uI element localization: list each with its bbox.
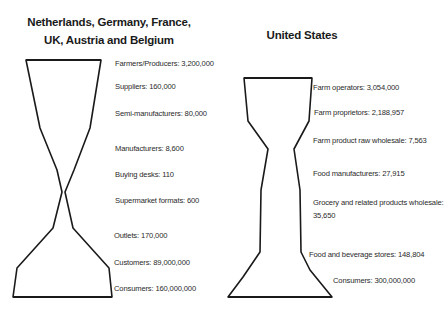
europe-hourglass-shape bbox=[13, 60, 112, 297]
europe-stage-manufacturers: Manufacturers: 8,600 bbox=[115, 143, 184, 154]
europe-stage-suppliers: Suppliers: 160,000 bbox=[115, 81, 176, 92]
europe-stage-customers: Customers: 89,000,000 bbox=[114, 257, 190, 268]
europe-stage-buying-desks: Buying desks: 110 bbox=[115, 169, 174, 180]
us-title: United States bbox=[252, 26, 352, 44]
europe-stage-semi-manufacturers: Semi-manufacturers: 80,000 bbox=[115, 108, 207, 119]
us-stage-consumers: Consumers: 300,000,000 bbox=[333, 275, 415, 286]
europe-stage-outlets: Outlets: 170,000 bbox=[114, 230, 167, 241]
europe-stage-supermarket-formats: Supermarket formats: 600 bbox=[115, 195, 199, 206]
us-stage-food-manufacturers: Food manufacturers: 27,915 bbox=[313, 168, 405, 179]
us-stage-food-beverage-stores: Food and beverage stores: 148,804 bbox=[309, 249, 424, 260]
us-stage-grocery-wholesale: Grocery and related products wholesale: … bbox=[313, 197, 444, 221]
us-stage-grocery-wholesale-line1: Grocery and related products wholesale: bbox=[313, 197, 444, 208]
us-stage-farm-product-raw-wholesale: Farm product raw wholesale: 7,563 bbox=[313, 135, 427, 146]
us-stage-farm-proprietors: Farm proprietors: 2,188,957 bbox=[314, 107, 404, 118]
europe-title-line2: UK, Austria and Belgium bbox=[14, 31, 204, 49]
us-stage-farm-operators: Farm operators: 3,054,000 bbox=[313, 82, 399, 93]
europe-title: Netherlands, Germany, France, UK, Austri… bbox=[14, 13, 204, 49]
us-stage-grocery-wholesale-line2: 35,650 bbox=[313, 210, 444, 221]
europe-stage-farmers-producers: Farmers/Producers: 3,200,000 bbox=[115, 58, 214, 69]
europe-stage-consumers: Consumers: 160,000,000 bbox=[114, 283, 196, 294]
europe-title-line1: Netherlands, Germany, France, bbox=[14, 13, 204, 31]
